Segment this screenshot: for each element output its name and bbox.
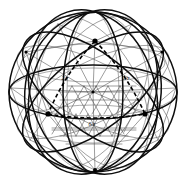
- left-edge-label: 2/r: [61, 75, 69, 81]
- upper-left-node: [24, 50, 27, 53]
- geodesic-sphere-drawing: 2/r 1/r 6/r: [0, 0, 185, 186]
- base-edge-label: 6/r: [88, 121, 96, 127]
- center-node: [92, 91, 95, 94]
- upper-right-node: [160, 50, 163, 53]
- geodesic-sphere-figure: 2/r 1/r 6/r: [0, 0, 185, 186]
- apex-node: [92, 38, 97, 43]
- right-node: [142, 111, 147, 116]
- bottom-node: [93, 168, 97, 172]
- left-node: [45, 111, 50, 116]
- right-edge-label: 1/r: [122, 75, 130, 81]
